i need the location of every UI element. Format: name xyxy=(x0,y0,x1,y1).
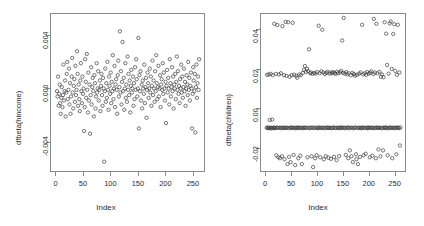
data-point xyxy=(112,97,115,100)
data-point xyxy=(86,88,89,91)
data-point xyxy=(347,157,350,160)
x-tick-mark xyxy=(369,172,370,176)
data-point xyxy=(375,22,378,25)
y-tick-label: 0.004 xyxy=(42,31,49,49)
data-point xyxy=(164,121,167,124)
data-point xyxy=(148,67,151,70)
data-point xyxy=(59,112,62,115)
data-point xyxy=(197,88,200,91)
data-point xyxy=(106,60,109,63)
data-point xyxy=(147,96,150,99)
x-tick-label: 0 xyxy=(53,179,57,188)
data-point xyxy=(111,54,114,57)
data-point xyxy=(69,95,72,98)
data-point xyxy=(185,74,188,77)
data-point xyxy=(68,103,71,106)
data-point xyxy=(178,101,181,104)
data-point xyxy=(119,70,122,73)
data-point xyxy=(138,89,141,92)
data-point xyxy=(374,157,377,160)
data-point xyxy=(110,80,113,83)
data-point xyxy=(124,96,127,99)
data-point xyxy=(174,72,177,75)
data-point xyxy=(317,24,320,27)
y-tick-label: 0.02 xyxy=(252,69,259,83)
data-point xyxy=(166,91,169,94)
data-point xyxy=(125,83,128,86)
data-point xyxy=(136,95,139,98)
data-point xyxy=(85,96,88,99)
data-point xyxy=(88,132,91,135)
data-point xyxy=(129,111,132,114)
data-point xyxy=(291,21,294,24)
data-point xyxy=(348,149,351,152)
x-tick-label: 200 xyxy=(362,179,375,188)
data-point xyxy=(62,63,65,66)
data-point xyxy=(177,92,180,95)
data-point xyxy=(170,85,173,88)
data-point xyxy=(196,75,199,78)
x-tick-mark xyxy=(138,172,139,176)
data-point xyxy=(180,63,183,66)
dfbeta-index-plot-figure: 76 * 77 dfbeta(hincome) Index 0501001502… xyxy=(0,0,424,226)
data-point xyxy=(169,82,172,85)
data-point xyxy=(72,84,75,87)
data-point xyxy=(194,85,197,88)
data-point xyxy=(289,160,292,163)
data-point xyxy=(145,116,148,119)
x-axis-label-left: Index xyxy=(0,203,212,212)
data-point xyxy=(342,16,345,19)
data-point xyxy=(131,75,134,78)
data-point xyxy=(123,87,126,90)
data-point xyxy=(105,96,108,99)
data-point xyxy=(281,24,284,27)
data-point xyxy=(197,58,200,61)
x-tick-mark xyxy=(395,172,396,176)
data-point xyxy=(139,99,142,102)
data-point xyxy=(169,95,172,98)
data-point xyxy=(84,58,87,61)
data-point xyxy=(107,108,110,111)
data-point xyxy=(124,62,127,65)
data-point xyxy=(89,66,92,69)
data-point xyxy=(190,127,193,130)
data-point xyxy=(184,104,187,107)
x-tick-label: 0 xyxy=(263,179,267,188)
data-point xyxy=(341,39,344,42)
data-point xyxy=(95,62,98,65)
data-point xyxy=(181,75,184,78)
data-point xyxy=(89,93,92,96)
data-point xyxy=(138,74,141,77)
data-point xyxy=(115,88,118,91)
data-point xyxy=(78,109,81,112)
data-point xyxy=(182,67,185,70)
data-point xyxy=(113,64,116,67)
x-tick-mark xyxy=(83,172,84,176)
data-point xyxy=(84,80,87,83)
data-point xyxy=(161,62,164,65)
data-point xyxy=(126,88,129,91)
x-tick-label: 150 xyxy=(132,179,145,188)
data-point xyxy=(398,71,401,74)
y-tick-label: 0.00 xyxy=(252,109,259,123)
data-point xyxy=(386,154,389,157)
data-point xyxy=(134,58,137,61)
data-point xyxy=(141,79,144,82)
data-point xyxy=(109,71,112,74)
data-point xyxy=(99,84,102,87)
data-point xyxy=(391,157,394,160)
data-point xyxy=(59,101,62,104)
data-point xyxy=(355,158,358,161)
data-point xyxy=(384,32,387,35)
data-point xyxy=(90,103,93,106)
data-point xyxy=(70,75,73,78)
data-point xyxy=(106,88,109,91)
data-point xyxy=(137,127,140,130)
data-point xyxy=(73,100,76,103)
data-point xyxy=(194,131,197,134)
data-point xyxy=(165,68,168,71)
data-point xyxy=(122,76,125,79)
data-point xyxy=(195,63,198,66)
data-point xyxy=(193,89,196,92)
data-point xyxy=(155,54,158,57)
